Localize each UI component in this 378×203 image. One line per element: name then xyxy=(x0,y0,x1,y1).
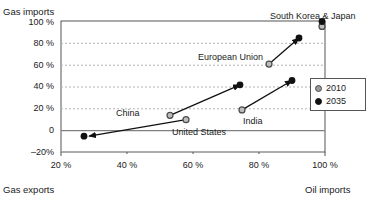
point-2035-china xyxy=(237,81,244,88)
chart-container: Gas imports Gas exports Oil imports 100 … xyxy=(0,0,378,203)
x-axis-ticks xyxy=(61,152,325,156)
point-2010-china xyxy=(167,112,173,118)
legend-label-2010: 2010 xyxy=(326,83,346,93)
legend-label-2035: 2035 xyxy=(326,96,346,106)
point-2010-united-states xyxy=(183,117,189,123)
label-china: China xyxy=(116,108,140,118)
label-european-union: European Union xyxy=(198,52,263,62)
point-2035-india xyxy=(289,77,296,84)
legend-marker-2035-icon xyxy=(315,98,322,105)
point-2035-european-union xyxy=(296,35,303,42)
legend: 2010 2035 xyxy=(310,78,366,111)
point-2010-european-union xyxy=(266,61,272,67)
legend-item-2010: 2010 xyxy=(315,82,346,95)
legend-item-2035: 2035 xyxy=(315,95,346,108)
label-india: India xyxy=(243,116,263,126)
point-2035-united-states xyxy=(81,133,88,140)
label-south-korea-japan: South Korea & Japan xyxy=(270,11,356,21)
point-2010-india xyxy=(239,107,245,113)
label-united-states: United States xyxy=(172,127,226,137)
legend-marker-2010-icon xyxy=(315,85,322,92)
